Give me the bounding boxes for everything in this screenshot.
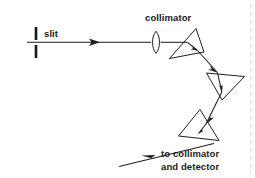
- output-label-line1: to collimator: [161, 148, 220, 159]
- prism-3: [179, 110, 220, 141]
- ray-prism2-to-prism3: [206, 92, 222, 124]
- slit-upper-bar: [35, 27, 38, 40]
- ray-prism1-to-prism2-line: [198, 51, 218, 73]
- ray-prism3-internal: [198, 124, 206, 134]
- prism-2: [207, 73, 245, 100]
- ray-prism1-to-prism2: [198, 51, 218, 73]
- collimator-lens: [153, 31, 160, 53]
- prism-1: [170, 29, 205, 59]
- ray-prism2-to-prism3-line: [206, 92, 222, 124]
- output-label-line2: and detector: [161, 161, 219, 172]
- collimator-label: collimator: [145, 12, 192, 23]
- ray-prism1-internal: [188, 42, 198, 51]
- ray-prism1-to-prism2-arrowhead: [208, 65, 218, 73]
- ray-prism2-internal: [218, 73, 223, 93]
- optical-diagram: slit collimator to collimator and detect…: [0, 0, 255, 178]
- lens-body: [153, 31, 160, 53]
- incident-beam: [27, 39, 151, 46]
- slit-label: slit: [44, 28, 59, 39]
- slit-lower-bar: [35, 45, 38, 58]
- ray-prism3-internal-line: [199, 124, 207, 134]
